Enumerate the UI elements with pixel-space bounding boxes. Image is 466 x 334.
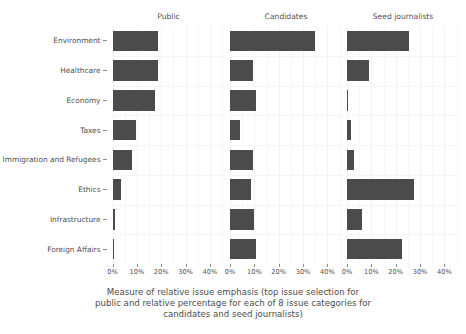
y-axis-label-row: Infrastructure (50, 205, 108, 235)
facet-title-public: Public (113, 11, 225, 22)
x-axis-tick-mark (186, 264, 187, 267)
bar-row (347, 56, 459, 86)
y-axis-label-text: Taxes (80, 126, 100, 135)
bar-row (347, 205, 459, 235)
x-axis-tick-mark (303, 264, 304, 267)
bar-row (113, 26, 225, 56)
y-axis-label-text: Economy (66, 96, 100, 105)
bar (347, 209, 362, 230)
bar-row (113, 234, 225, 264)
facet-title-seed-journalists: Seed journalists (347, 11, 459, 22)
x-axis-tick-mark (420, 264, 421, 267)
bar (113, 90, 156, 111)
bar (230, 150, 253, 171)
x-axis-tick-label: 0% (342, 268, 352, 276)
x-axis-tick-mark (279, 264, 280, 267)
x-axis-tick-mark (371, 264, 372, 267)
bar-row (230, 86, 342, 116)
bar (230, 120, 240, 141)
bar (347, 60, 369, 81)
x-axis-tick-mark (327, 264, 328, 267)
y-axis-label-row: Foreign Affairs (47, 234, 108, 264)
y-axis-tick-mark (103, 249, 107, 250)
x-axis-tick-mark (254, 264, 255, 267)
facet-title-candidates: Candidates (230, 11, 342, 22)
bar-row (113, 86, 225, 116)
x-axis-tick-label: 20% (388, 268, 403, 276)
bar-row (230, 115, 342, 145)
x-axis-tick-label: 0% (107, 268, 117, 276)
x-axis-tick-label: 30% (178, 268, 193, 276)
bar (347, 120, 351, 141)
y-axis-category-labels: EnvironmentHealthcareEconomyTaxesImmigra… (0, 26, 108, 264)
y-axis-tick-mark (103, 70, 107, 71)
bar-row (347, 26, 459, 56)
bar-row (230, 145, 342, 175)
y-axis-label-text: Foreign Affairs (47, 245, 100, 254)
facet-title-row: Public Candidates Seed journalists (0, 11, 466, 23)
caption-line-3: candidates and seed journalists) (52, 309, 414, 320)
bar (230, 209, 254, 230)
bar (230, 31, 315, 52)
plot-area-seed-journalists (347, 26, 459, 264)
bar-row (347, 234, 459, 264)
bar (347, 90, 348, 111)
bar (347, 31, 409, 52)
bar (113, 239, 115, 260)
bar-row (230, 205, 342, 235)
chart-caption: Measure of relative issue emphasis (top … (52, 287, 414, 321)
bar-row (347, 115, 459, 145)
y-axis-label-text: Ethics (78, 185, 100, 194)
bar-row (230, 234, 342, 264)
bar (113, 209, 115, 230)
bar (347, 239, 402, 260)
y-axis-label-row: Taxes (80, 115, 108, 145)
bar (347, 179, 414, 200)
x-axis-tick-label: 20% (271, 268, 286, 276)
bar (113, 150, 132, 171)
x-axis-tick-mark (230, 264, 231, 267)
bar (113, 120, 136, 141)
x-axis-tick-label: 20% (154, 268, 169, 276)
bar-row (230, 175, 342, 205)
plot-area-public (113, 26, 225, 264)
y-axis-label-row: Ethics (78, 175, 108, 205)
y-axis-label-row: Healthcare (60, 56, 108, 86)
y-axis-label-text: Immigration and Refugees (3, 155, 101, 164)
bar (230, 60, 253, 81)
y-axis-label-row: Immigration and Refugees (3, 145, 108, 175)
bar (230, 90, 256, 111)
x-axis-tick-label: 40% (437, 268, 452, 276)
x-axis-tick-mark (137, 264, 138, 267)
bar-row (347, 145, 459, 175)
bar (113, 179, 122, 200)
bar (347, 150, 354, 171)
x-axis-tick-mark (161, 264, 162, 267)
plot-area-candidates (230, 26, 342, 264)
x-axis-tick-label: 0% (225, 268, 235, 276)
bar-row (230, 26, 342, 56)
x-axis-tick-label: 40% (320, 268, 335, 276)
caption-line-2: public and relative percentage for each … (52, 298, 414, 309)
y-axis-tick-mark (103, 219, 107, 220)
x-axis-tick-mark (396, 264, 397, 267)
y-axis-label-row: Environment (53, 26, 108, 56)
x-axis-tick-label: 30% (296, 268, 311, 276)
x-axis-seed-journalists: 0%10%20%30%40% (347, 264, 459, 282)
caption-line-1: Measure of relative issue emphasis (top … (52, 287, 414, 298)
y-axis-tick-mark (103, 100, 107, 101)
bar-row (113, 145, 225, 175)
bar-row (347, 86, 459, 116)
bar (113, 31, 158, 52)
bar (113, 60, 158, 81)
y-axis-label-row: Economy (66, 86, 108, 116)
x-axis-tick-label: 10% (247, 268, 262, 276)
bar (230, 239, 256, 260)
y-axis-tick-mark (103, 189, 107, 190)
bar-row (113, 115, 225, 145)
panel-public (113, 26, 225, 264)
x-axis-tick-label: 10% (364, 268, 379, 276)
x-axis-tick-label: 10% (130, 268, 145, 276)
y-axis-label-text: Infrastructure (50, 215, 101, 224)
y-axis-tick-mark (103, 40, 107, 41)
